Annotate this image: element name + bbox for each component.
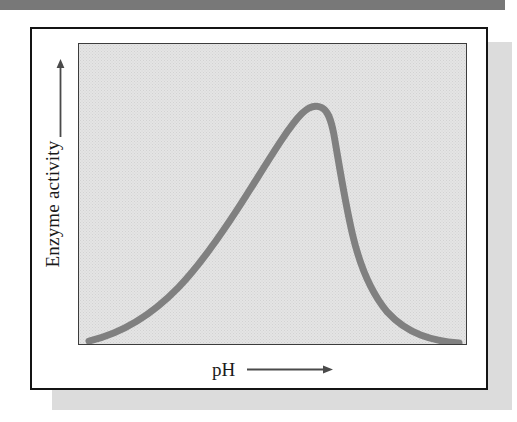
right-arrow-icon — [247, 364, 333, 375]
enzyme-activity-curve — [79, 44, 466, 344]
plot-panel — [78, 43, 467, 345]
figure-card: Enzyme activity pH — [30, 27, 488, 390]
x-axis-group: pH — [78, 351, 467, 387]
x-axis-label: pH — [212, 360, 235, 379]
y-axis-label: Enzyme activity — [42, 89, 64, 319]
y-axis-group: Enzyme activity — [32, 43, 78, 345]
top-rule — [0, 0, 505, 10]
